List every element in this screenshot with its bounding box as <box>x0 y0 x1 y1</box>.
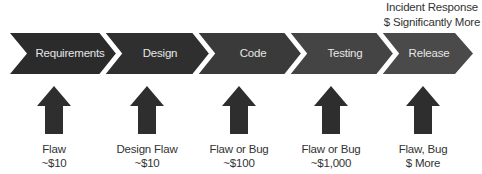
incident-response-label: Incident Response <box>382 0 482 15</box>
cost-note-amount: ~$100 <box>189 156 289 170</box>
incident-response-annotation: Incident Response $ Significantly More <box>382 0 482 30</box>
cost-note-amount: ~$10 <box>97 156 197 170</box>
lifecycle-cost-diagram: Incident Response $ Significantly More R… <box>0 0 482 174</box>
cost-note-type: Flaw, Bug <box>373 142 473 156</box>
cost-note-type: Flaw or Bug <box>189 142 289 156</box>
cost-note-testing: Flaw or Bug ~$1,000 <box>281 142 381 170</box>
up-arrow-icon <box>130 86 164 134</box>
cost-note-type: Flaw <box>4 142 104 156</box>
stage-label-requirements: Requirements <box>22 33 118 74</box>
stage-label-testing: Testing <box>297 33 393 74</box>
cost-note-type: Flaw or Bug <box>281 142 381 156</box>
up-arrow-icon <box>222 86 256 134</box>
incident-response-cost: $ Significantly More <box>382 15 482 30</box>
cost-note-amount: $ More <box>373 156 473 170</box>
cost-note-amount: ~$10 <box>4 156 104 170</box>
stage-label-design: Design <box>112 33 208 74</box>
cost-note-design: Design Flaw ~$10 <box>97 142 197 170</box>
up-arrow-icon <box>406 86 440 134</box>
cost-note-release: Flaw, Bug $ More <box>373 142 473 170</box>
cost-note-requirements: Flaw ~$10 <box>4 142 104 170</box>
stage-label-release: Release <box>384 33 474 74</box>
cost-note-code: Flaw or Bug ~$100 <box>189 142 289 170</box>
up-arrow-icon <box>314 86 348 134</box>
up-arrows <box>37 86 440 134</box>
cost-note-amount: ~$1,000 <box>281 156 381 170</box>
cost-note-type: Design Flaw <box>97 142 197 156</box>
up-arrow-icon <box>37 86 71 134</box>
stage-label-code: Code <box>205 33 301 74</box>
